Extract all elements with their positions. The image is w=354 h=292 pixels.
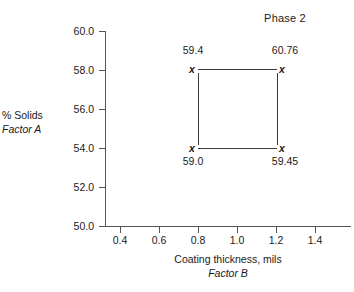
y-axis-tick <box>99 70 105 71</box>
x-axis-tick-label: 1.4 <box>295 234 335 246</box>
interaction-plot: Phase 2 60.0 58.0 56.0 54.0 52.0 50.0 0.… <box>0 0 354 292</box>
y-axis-title-factor: Factor A <box>2 122 80 136</box>
y-axis-tick-label-text: 60.0 <box>50 25 94 37</box>
y-axis-tick <box>99 31 105 32</box>
x-axis-tick <box>276 227 277 233</box>
series-line-a-low <box>198 148 277 149</box>
x-axis-tick-label: 1.2 <box>256 234 296 246</box>
series-line-a-high <box>198 69 277 70</box>
page-title: Phase 2 <box>240 12 330 24</box>
y-axis-tick <box>99 187 105 188</box>
x-axis-tick-label: 0.8 <box>178 234 218 246</box>
x-axis-tick <box>120 227 121 233</box>
y-axis-tick <box>99 109 105 110</box>
y-axis-title: % Solids Factor A <box>2 108 80 136</box>
data-point-label: 59.45 <box>272 155 298 167</box>
y-axis-tick-label-text: 58.0 <box>50 64 94 76</box>
x-axis-tick <box>198 227 199 233</box>
x-axis-title-factor: Factor B <box>105 266 351 280</box>
y-axis-tick <box>99 226 105 227</box>
x-axis-tick <box>315 227 316 233</box>
y-axis-title-main: % Solids <box>2 108 80 122</box>
y-axis-tick-label-text: 50.0 <box>50 220 94 232</box>
x-axis-title-main: Coating thickness, mils <box>105 252 351 266</box>
data-point-marker[interactable]: x <box>279 64 285 75</box>
y-axis-tick-label-text: 52.0 <box>50 181 94 193</box>
data-point-marker[interactable]: x <box>189 64 195 75</box>
connector-line-left <box>198 73 199 145</box>
y-axis-tick-label-text: 54.0 <box>50 142 94 154</box>
connector-line-right <box>277 73 278 145</box>
x-axis-tick <box>159 227 160 233</box>
y-axis-tick <box>99 148 105 149</box>
data-point-label: 59.0 <box>183 155 203 167</box>
data-point-label: 60.76 <box>272 44 298 56</box>
x-axis-tick <box>237 227 238 233</box>
data-point-marker[interactable]: x <box>189 143 195 154</box>
data-point-marker[interactable]: x <box>279 143 285 154</box>
y-axis-line <box>105 31 106 227</box>
data-point-label: 59.4 <box>183 44 203 56</box>
x-axis-title: Coating thickness, mils Factor B <box>105 252 351 280</box>
x-axis-tick-label: 0.6 <box>139 234 179 246</box>
x-axis-tick-label: 1.0 <box>217 234 257 246</box>
x-axis-tick-label: 0.4 <box>100 234 140 246</box>
